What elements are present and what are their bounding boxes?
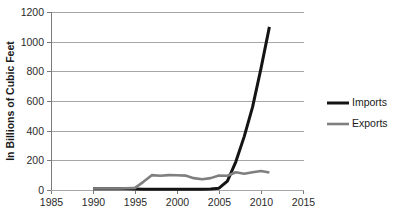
line-chart: 020040060080010001200 198519901995200020… bbox=[0, 0, 395, 222]
chart-legend: ImportsExports bbox=[327, 96, 388, 129]
chart-container: 020040060080010001200 198519901995200020… bbox=[0, 0, 395, 222]
x-tick-label-1990: 1990 bbox=[82, 196, 106, 208]
y-tick-label-800: 800 bbox=[26, 65, 44, 77]
series-line-exports bbox=[93, 171, 269, 189]
y-tick-label-400: 400 bbox=[26, 125, 44, 137]
x-axis-ticks: 1985199019952000200520102015 bbox=[40, 190, 316, 208]
y-axis-ticks: 020040060080010001200 bbox=[21, 6, 51, 196]
x-tick-label-2015: 2015 bbox=[292, 196, 316, 208]
y-tick-label-0: 0 bbox=[38, 184, 44, 196]
x-tick-label-2000: 2000 bbox=[166, 196, 190, 208]
legend-label-exports: Exports bbox=[352, 117, 388, 129]
y-tick-label-600: 600 bbox=[26, 95, 44, 107]
legend-label-imports: Imports bbox=[352, 96, 387, 108]
x-tick-label-1985: 1985 bbox=[40, 196, 64, 208]
series-line-imports bbox=[93, 27, 269, 189]
x-tick-label-2005: 2005 bbox=[208, 196, 232, 208]
y-tick-label-1200: 1200 bbox=[21, 6, 45, 18]
data-series bbox=[93, 27, 269, 189]
y-axis-title: In Billions of Cubic Feet bbox=[4, 41, 16, 161]
x-tick-label-1995: 1995 bbox=[124, 196, 148, 208]
x-tick-label-2010: 2010 bbox=[250, 196, 274, 208]
y-tick-label-1000: 1000 bbox=[21, 36, 45, 48]
y-tick-label-200: 200 bbox=[26, 154, 44, 166]
